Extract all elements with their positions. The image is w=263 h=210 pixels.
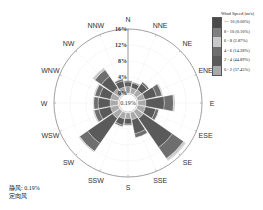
direction-label-ese: ESE — [199, 132, 213, 139]
direction-label-nnw: NNW — [87, 22, 104, 29]
direction-label-e: E — [210, 100, 215, 107]
legend-swatch-1 — [213, 28, 221, 38]
legend-item: 4 - 6 (14.28%) — [224, 46, 250, 56]
legend-swatch-0 — [213, 18, 221, 28]
legend: Wind Speed (m/s) >= 10 (0.00%) 8 - 10 (0… — [212, 11, 263, 76]
direction-label-ene: ENE — [198, 67, 213, 74]
radial-tick-label: 0% — [118, 90, 127, 96]
legend-item: 0 - 2 (37.45%) — [224, 65, 250, 75]
direction-label-nw: NW — [63, 40, 75, 47]
direction-label-nne: NNE — [153, 22, 168, 29]
direction-label-s: S — [126, 184, 131, 191]
radial-tick-label: 4% — [118, 74, 127, 80]
radial-tick-label: 12% — [115, 42, 127, 48]
directional-wind-note: 定向风 — [9, 192, 40, 200]
legend-swatch-3 — [213, 47, 221, 57]
direction-label-sw: SW — [63, 159, 75, 166]
legend-colorbar — [212, 17, 222, 76]
direction-label-se: SE — [183, 159, 193, 166]
legend-item: 6 - 8 (2.87%) — [224, 36, 250, 46]
legend-swatch-2 — [213, 37, 221, 47]
legend-item: 8 - 10 (0.10%) — [224, 27, 250, 37]
legend-item: >= 10 (0.00%) — [224, 17, 250, 27]
direction-label-n: N — [125, 16, 130, 23]
legend-title: Wind Speed (m/s) — [212, 11, 263, 16]
legend-item: 2 - 4 (44.89%) — [224, 55, 250, 65]
radial-tick-label: 16% — [115, 26, 127, 32]
direction-label-wsw: WSW — [41, 132, 59, 139]
legend-swatch-4 — [213, 56, 221, 66]
calm-wind-note: 静风: 0.19% — [9, 184, 40, 192]
direction-label-sse: SSE — [153, 177, 167, 184]
direction-label-w: W — [41, 100, 48, 107]
footnote: 静风: 0.19% 定向风 — [9, 184, 40, 200]
wind-petals — [79, 68, 186, 161]
direction-label-wnw: WNW — [41, 67, 60, 74]
direction-label-ssw: SSW — [88, 177, 104, 184]
radial-tick-label: 8% — [118, 58, 127, 64]
calm-percent-label: 0.19% — [120, 100, 136, 106]
direction-label-ne: NE — [183, 40, 193, 47]
legend-swatch-5 — [213, 66, 221, 76]
